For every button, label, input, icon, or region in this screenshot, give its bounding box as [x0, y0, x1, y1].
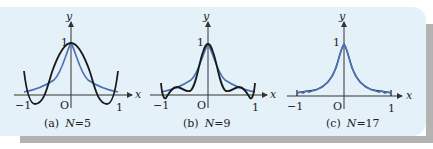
caption-a: (a)N=5: [44, 117, 91, 130]
y-axis-label: y: [202, 10, 210, 23]
y-axis-label: y: [65, 10, 73, 23]
y-tick-1: 1: [333, 36, 340, 49]
y-axis-label: y: [338, 10, 346, 23]
figure: y 1 x −1 O 1 (a)N=5 y 1 x −1 O 1 (b)N=9 …: [0, 0, 433, 149]
origin-label: O: [60, 99, 69, 112]
x-axis-label: x: [270, 88, 277, 101]
caption-c: (c)N=17: [326, 117, 380, 130]
x-tick-neg1: −1: [15, 99, 31, 112]
x-axis-label: x: [135, 88, 142, 101]
origin-label: O: [197, 99, 206, 112]
x-tick-1: 1: [252, 101, 259, 114]
x-tick-1: 1: [116, 101, 123, 114]
x-tick-1: 1: [388, 102, 395, 115]
x-axis-label: x: [406, 89, 413, 102]
chart-a: y 1 x −1 O 1 (a)N=5: [14, 10, 142, 130]
chart-c: y 1 x −1 O 1 (c)N=17: [287, 10, 413, 130]
x-tick-neg1: −1: [287, 100, 303, 113]
origin-label: O: [333, 100, 342, 113]
caption-b: (b)N=9: [183, 117, 230, 130]
x-tick-neg1: −1: [153, 99, 169, 112]
chart-b: y 1 x −1 O 1 (b)N=9: [150, 10, 277, 130]
y-tick-1: 1: [197, 36, 204, 49]
y-tick-1: 1: [61, 36, 68, 49]
